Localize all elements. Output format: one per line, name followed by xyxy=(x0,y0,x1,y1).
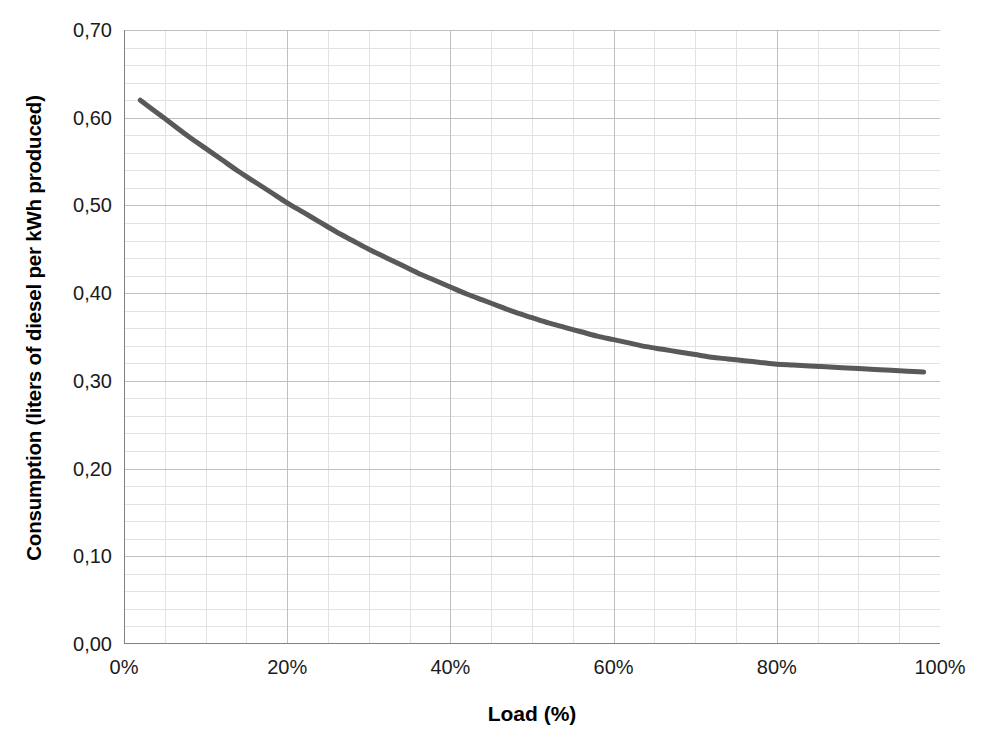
y-axis-tick-label: 0,20 xyxy=(28,457,112,481)
x-axis-tick-label: 80% xyxy=(717,654,837,680)
y-axis-tick-label: 0,40 xyxy=(28,281,112,305)
y-axis-tick-label: 0,00 xyxy=(28,632,112,656)
y-axis-tick-label: 0,60 xyxy=(28,106,112,130)
x-axis-tick-label: 20% xyxy=(227,654,347,680)
x-axis-title: Load (%) xyxy=(124,700,940,728)
y-axis-tick-labels: 0,000,100,200,300,400,500,600,70 xyxy=(22,0,112,742)
y-axis-tick-label: 0,70 xyxy=(28,18,112,42)
x-axis-tick-label: 100% xyxy=(880,654,987,680)
x-axis-tick-label: 0% xyxy=(64,654,184,680)
y-axis-tick-label: 0,50 xyxy=(28,193,112,217)
x-axis-tick-label: 40% xyxy=(390,654,510,680)
x-axis-tick-labels: 0%20%40%60%80%100% xyxy=(0,654,987,684)
y-axis-tick-label: 0,30 xyxy=(28,369,112,393)
chart-canvas xyxy=(124,30,940,644)
x-axis-tick-label: 60% xyxy=(554,654,674,680)
minor-gridlines xyxy=(124,30,940,644)
chart-figure: Consumption (liters of diesel per kWh pr… xyxy=(0,0,987,742)
y-axis-tick-label: 0,10 xyxy=(28,544,112,568)
plot-area xyxy=(124,30,940,644)
